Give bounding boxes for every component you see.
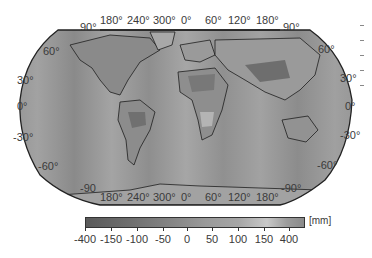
bottom-lon-label: 180° [256,192,279,203]
colorbar-tick [238,228,239,231]
colorbar-tick [111,228,112,231]
top-lon-label: 120° [228,15,251,26]
right-lat-label: -60° [317,160,337,171]
top-lon-label: 60° [205,15,222,26]
colorbar-tick-label: 400 [280,233,298,245]
left-lat-label: 30° [17,75,34,86]
colorbar-tick-label: -50 [155,233,171,245]
colorbar-tick-label: -100 [126,233,148,245]
top-lon-label: 300° [153,15,176,26]
colorbar-tick [163,228,164,231]
colorbar-tick [289,228,290,231]
bottom-lon-label: 240° [127,192,150,203]
bottom-lon-label: -90 [80,183,96,194]
top-lon-label: 180° [256,15,279,26]
colorbar [85,217,305,228]
bottom-lon-label: 120° [228,192,251,203]
bottom-lon-label: 60° [205,192,222,203]
top-lon-label: 90° [80,22,97,33]
left-lat-label: -60° [38,161,58,172]
bottom-lon-label: 0° [181,192,192,203]
colorbar-tick [187,228,188,231]
colorbar-unit: [mm] [309,215,331,226]
colorbar-tick-label: -400 [74,233,96,245]
left-lat-label: -30° [13,132,33,143]
colorbar-tick-label: 150 [255,233,273,245]
right-lat-label: 30° [340,73,357,84]
edge-mark [360,25,364,26]
colorbar-tick [137,228,138,231]
bottom-lon-label: 300° [153,192,176,203]
right-lat-label: 0° [345,101,356,112]
colorbar-tick-label: -150 [100,233,122,245]
colorbar-tick-label: 0 [184,233,190,245]
top-lon-label: 180° [100,15,123,26]
edge-mark [360,40,364,41]
top-lon-label: 90° [283,22,300,33]
left-lat-label: 0° [17,101,28,112]
colorbar-tick-label: 50 [206,233,218,245]
top-lon-label: 0° [181,15,192,26]
colorbar-tick-label: 100 [229,233,247,245]
colorbar-tick [264,228,265,231]
right-lat-label: -30° [340,130,360,141]
edge-mark [360,55,364,56]
edge-mark [360,70,364,71]
bottom-lon-label: -90° [281,183,301,194]
colorbar-tick [85,228,86,231]
edge-mark [360,85,364,86]
top-lon-label: 240° [127,15,150,26]
bottom-lon-label: 180° [100,192,123,203]
colorbar-tick [212,228,213,231]
left-lat-label: 60° [43,46,60,57]
right-lat-label: 60° [318,44,335,55]
